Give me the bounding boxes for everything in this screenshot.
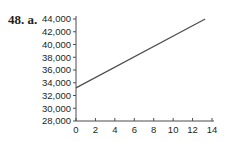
y-tick-label: 32,000 — [42, 90, 71, 101]
line-chart: 28,00030,00032,00034,00036,00038,00040,0… — [0, 0, 232, 142]
y-tick-label: 44,000 — [42, 13, 71, 24]
y-tick-label: 40,000 — [42, 39, 71, 50]
x-tick-label: 4 — [112, 124, 117, 135]
y-tick-label: 34,000 — [42, 77, 71, 88]
x-tick-label: 0 — [73, 124, 78, 135]
y-tick-label: 38,000 — [42, 52, 71, 63]
x-tick-label: 12 — [187, 124, 198, 135]
y-tick-label: 42,000 — [42, 26, 71, 37]
y-tick-label: 36,000 — [42, 64, 71, 75]
x-tick-label: 8 — [151, 124, 156, 135]
y-tick-label: 30,000 — [42, 103, 71, 114]
x-tick-label: 6 — [132, 124, 137, 135]
data-line — [76, 19, 205, 88]
x-tick-label: 2 — [93, 124, 98, 135]
x-tick-label: 14 — [207, 124, 218, 135]
y-tick-label: 28,000 — [42, 115, 71, 126]
x-tick-label: 10 — [168, 124, 179, 135]
